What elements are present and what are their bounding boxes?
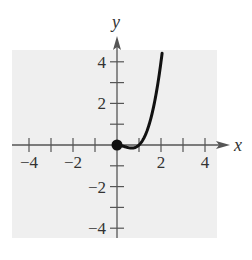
y-tick-label: 2: [98, 94, 107, 113]
x-tick-label: −4: [20, 153, 39, 172]
x-tick-label: 4: [201, 153, 210, 172]
x-axis-label: x: [233, 135, 242, 155]
y-tick-label: −4: [88, 219, 107, 238]
x-tick-label: 2: [157, 153, 166, 172]
y-tick-label: 4: [98, 53, 107, 72]
function-graph: −4−22442−2−4 x y: [0, 0, 252, 260]
closed-dot: [112, 140, 123, 151]
x-tick-label: −2: [64, 153, 82, 172]
closed-points: [112, 140, 123, 151]
y-axis-label: y: [110, 12, 120, 32]
y-tick-label: −2: [88, 178, 106, 197]
